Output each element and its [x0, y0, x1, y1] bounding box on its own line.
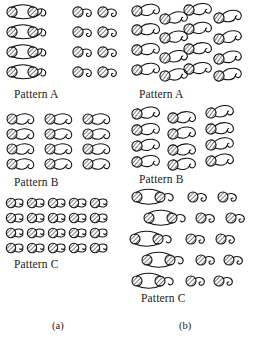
- panel-b-pattern-c: Pattern C: [127, 188, 253, 292]
- motif-row: [132, 273, 232, 288]
- motif-row: [142, 252, 242, 267]
- panel-label-a-pattern-c: Pattern C: [14, 258, 58, 271]
- motif-row: [131, 104, 234, 124]
- panel-b-pattern-c-drawing: [127, 188, 253, 292]
- motif-row: [7, 159, 110, 169]
- panel-b-pattern-b: Pattern B: [127, 105, 253, 171]
- panel-label-a-pattern-b: Pattern B: [14, 176, 58, 189]
- panel-a-pattern-a-drawing: [0, 2, 126, 86]
- motif-row: [6, 213, 107, 222]
- motif-row: [6, 243, 107, 252]
- motif-row: [7, 114, 110, 124]
- panel-b-pattern-a: Pattern A: [127, 2, 253, 86]
- panel-label-b-pattern-a: Pattern A: [139, 88, 183, 101]
- motif-row: [130, 231, 234, 246]
- panel-a-pattern-b: Pattern B: [0, 110, 126, 174]
- motif-row: [131, 137, 234, 156]
- figure-column-b: Pattern A: [127, 0, 253, 346]
- motif-row: [7, 5, 116, 19]
- panel-b-pattern-a-drawing: [127, 2, 253, 86]
- motif-row: [131, 122, 233, 140]
- motif-row: [131, 42, 242, 65]
- motif-row: [7, 129, 110, 139]
- motif-row: [144, 210, 244, 225]
- motif-row: [7, 45, 116, 59]
- motif-row: [131, 153, 234, 171]
- panel-b-pattern-b-drawing: [127, 105, 253, 171]
- panel-label-b-pattern-c: Pattern C: [141, 292, 185, 305]
- motif-row: [131, 62, 242, 83]
- motif-row: [7, 25, 116, 39]
- motif-row: [6, 198, 107, 207]
- motif-row: [131, 3, 242, 26]
- figure-column-a: Pattern A: [0, 0, 126, 346]
- figure-root: Pattern A: [0, 0, 253, 346]
- panel-label-a-pattern-a: Pattern A: [14, 88, 58, 101]
- motif-row: [132, 189, 236, 204]
- motif-row: [7, 144, 110, 154]
- panel-label-b-pattern-b: Pattern B: [139, 173, 183, 186]
- panel-a-pattern-c: Pattern C: [0, 196, 126, 256]
- panel-a-pattern-a: Pattern A: [0, 2, 126, 86]
- motif-row: [6, 228, 107, 237]
- motif-row: [7, 65, 116, 79]
- motif-row: [132, 21, 243, 45]
- column-caption-b: (b): [179, 320, 191, 332]
- panel-a-pattern-c-drawing: [0, 196, 126, 256]
- column-caption-a: (a): [52, 320, 64, 332]
- panel-a-pattern-b-drawing: [0, 110, 126, 174]
